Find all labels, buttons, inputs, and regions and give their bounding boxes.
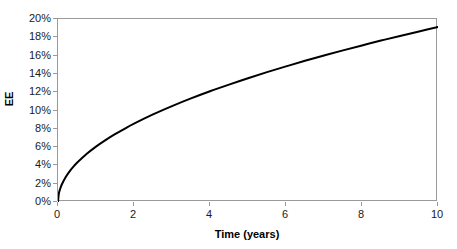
x-axis-tick-labels: 0246810 <box>57 208 437 222</box>
x-axis-title: Time (years) <box>57 228 437 241</box>
plot-area <box>57 18 437 201</box>
x-axis-tick-label: 4 <box>206 208 212 220</box>
x-axis-tick-mark <box>133 202 134 206</box>
x-axis-tick-mark <box>361 202 362 206</box>
x-axis-tick-marks <box>57 202 437 207</box>
x-axis-tick-label: 8 <box>358 208 364 220</box>
x-axis-tick-mark <box>209 202 210 206</box>
x-axis-tick-mark <box>57 202 58 206</box>
x-axis-tick-label: 2 <box>130 208 136 220</box>
y-axis-tick-label: 18% <box>29 31 51 42</box>
y-axis-tick-label: 10% <box>29 104 51 115</box>
y-axis-tick-label: 6% <box>35 141 51 152</box>
y-axis-tick-labels: 0%2%4%6%8%10%12%14%16%18%20% <box>0 18 51 201</box>
y-axis-title: EE <box>3 92 15 107</box>
y-axis-tick-label: 8% <box>35 122 51 133</box>
y-axis-tick-label: 20% <box>29 13 51 24</box>
x-axis-tick-label: 0 <box>54 208 60 220</box>
y-axis-tick-label: 16% <box>29 49 51 60</box>
x-axis-tick-label: 6 <box>282 208 288 220</box>
x-axis-tick-mark <box>437 202 438 206</box>
y-axis-tick-label: 0% <box>35 196 51 207</box>
y-axis-tick-label: 14% <box>29 67 51 78</box>
data-curve-svg <box>58 19 438 202</box>
chart-container: 0%2%4%6%8%10%12%14%16%18%20% EE 0246810 … <box>0 0 457 249</box>
y-axis-tick-label: 12% <box>29 86 51 97</box>
series-line-ee <box>58 27 438 202</box>
y-axis-tick-label: 2% <box>35 177 51 188</box>
x-axis-tick-mark <box>285 202 286 206</box>
x-axis-tick-label: 10 <box>431 208 443 220</box>
y-axis-tick-label: 4% <box>35 159 51 170</box>
